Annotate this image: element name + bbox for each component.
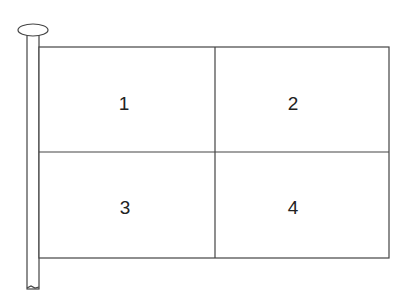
quadrant-3-label: 3 [120, 197, 131, 218]
quadrant-2-label: 2 [288, 93, 299, 114]
pole-finial [18, 24, 48, 36]
flag-diagram: 1 2 3 4 [0, 0, 412, 304]
flag: 1 2 3 4 [39, 47, 389, 258]
quadrant-4-label: 4 [288, 197, 299, 218]
quadrant-1-label: 1 [119, 93, 130, 114]
